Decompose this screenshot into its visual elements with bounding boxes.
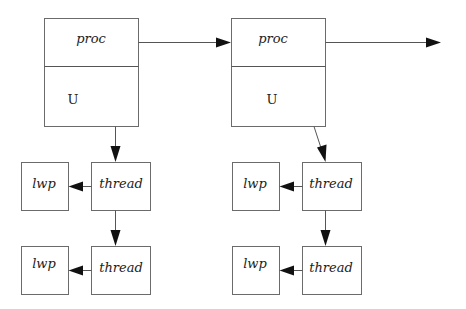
thread-label: thread [99,176,143,191]
arrowhead-icon [111,230,121,246]
proc-label-1: proc [76,31,106,46]
arrow-proc1-to-proc2 [139,38,232,48]
arrowhead-icon [69,182,84,192]
arrowhead-icon [69,266,84,276]
arrowhead-icon [280,266,295,276]
arrowhead-icon [111,146,121,162]
arrow-u2-to-thread1 [314,127,327,163]
lwp-2-1: lwp [233,163,280,211]
arrow-thread-to-lwp [69,266,92,276]
lwp-1-2: lwp [22,247,69,295]
arrow-thread-to-lwp [69,182,92,192]
arrowhead-icon [321,230,331,246]
arrow-thread-to-lwp [280,266,303,276]
arrowhead-icon [216,38,231,48]
arrow-u1-to-thread1 [111,127,121,163]
thread-label: thread [309,176,353,191]
u-label-2: U [267,92,278,107]
thread-label: thread [309,260,353,275]
arrow-thread1-to-thread2 [111,211,121,247]
arrow-proc2-to-next [326,38,442,48]
thread-label: thread [99,260,143,275]
arrowhead-icon [280,182,295,192]
lwp-2-2: lwp [233,247,280,295]
lwp-label: lwp [32,256,56,271]
process-diagram: proc U proc U thread lwp thre [0,0,466,309]
process-1: proc U [45,19,139,127]
thread-1-1: thread [92,163,151,211]
thread-1-2: thread [92,247,151,295]
lwp-1-1: lwp [22,163,69,211]
arrowhead-icon [317,145,327,163]
proc-label-2: proc [258,31,288,46]
lwp-label: lwp [32,176,56,191]
arrow-thread-to-lwp [280,182,303,192]
process-2: proc U [232,19,326,127]
arrow-thread1-to-thread2 [321,211,331,247]
lwp-label: lwp [243,176,267,191]
arrowhead-icon [426,38,441,48]
thread-2-2: thread [303,247,362,295]
thread-2-1: thread [303,163,362,211]
u-label-1: U [68,92,79,107]
lwp-label: lwp [243,256,267,271]
